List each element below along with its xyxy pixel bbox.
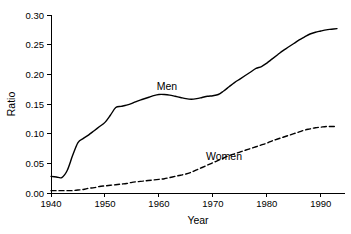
y-tick-label: 0.05: [26, 158, 45, 169]
series-line-women: [51, 127, 337, 191]
y-tick-label: 0.20: [26, 69, 45, 80]
x-axis: 194019501960197019801990 Year: [40, 193, 345, 226]
series-annotation-men: Men: [157, 80, 178, 92]
y-axis: 0.000.050.100.150.200.250.30 Ratio: [5, 10, 51, 199]
y-tick-label: 0.25: [26, 39, 45, 50]
x-tick-label-group: 194019501960197019801990: [40, 198, 331, 209]
x-axis-title: Year: [187, 214, 209, 226]
line-chart: 0.000.050.100.150.200.250.30 Ratio 19401…: [0, 0, 351, 234]
y-tick-label: 0.15: [26, 99, 45, 110]
x-tick-label: 1940: [40, 198, 61, 209]
y-tick-label: 0.30: [26, 10, 45, 21]
x-tick-label: 1960: [148, 198, 169, 209]
x-tick-group: [51, 193, 321, 197]
y-tick-label: 0.10: [26, 128, 45, 139]
y-tick-label-group: 0.000.050.100.150.200.250.30: [26, 10, 45, 199]
x-tick-label: 1990: [310, 198, 331, 209]
x-tick-label: 1980: [256, 198, 277, 209]
y-axis-title: Ratio: [5, 92, 17, 117]
x-tick-label: 1970: [202, 198, 223, 209]
chart-container: 0.000.050.100.150.200.250.30 Ratio 19401…: [0, 0, 351, 234]
y-tick-group: [47, 15, 51, 193]
x-tick-label: 1950: [94, 198, 115, 209]
series-annotation-women: Women: [206, 150, 242, 162]
series-group: [51, 29, 337, 191]
series-line-men: [51, 29, 337, 178]
y-tick-label: 0.00: [26, 188, 45, 199]
